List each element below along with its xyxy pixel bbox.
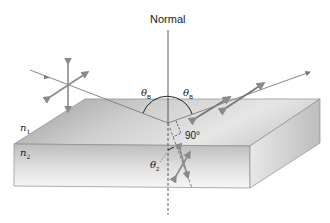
- theta-subscript: 2: [156, 166, 159, 172]
- n2-label: n2: [20, 148, 30, 160]
- n1-label: n1: [20, 123, 30, 135]
- n-subscript: 1: [26, 128, 30, 135]
- theta-subscript: B: [189, 94, 193, 100]
- brewster-angle-diagram: Normal θB θB 90° θ2 n1 n2: [0, 0, 330, 223]
- theta-2-label: θ2: [150, 160, 159, 172]
- glass-slab: [14, 99, 320, 188]
- slab-front-face: [14, 144, 250, 188]
- theta-subscript: B: [147, 94, 151, 100]
- right-angle-label: 90°: [185, 131, 200, 141]
- theta-b-incident-label: θB: [141, 88, 151, 100]
- theta-b-reflected-label: θB: [183, 88, 193, 100]
- normal-label: Normal: [150, 14, 185, 25]
- n-subscript: 2: [26, 153, 30, 160]
- diagram-canvas: [0, 0, 330, 223]
